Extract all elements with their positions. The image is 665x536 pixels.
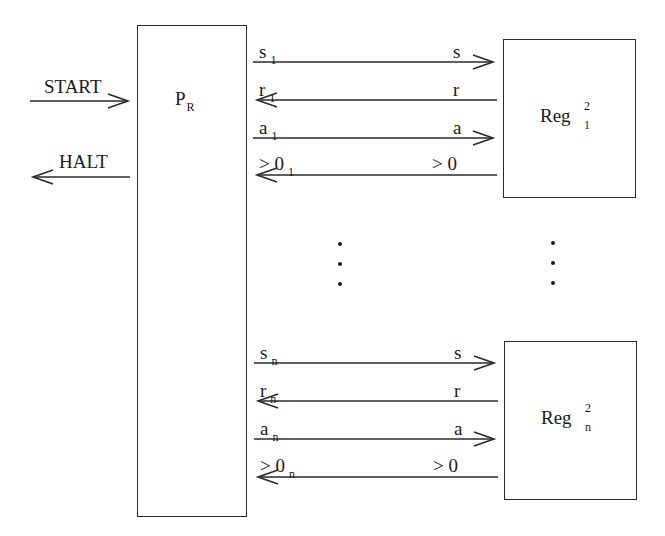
gt0-n-right-label: > 0 [433, 456, 458, 475]
r1-left-label: r1 [259, 80, 275, 99]
rn-arrow [258, 394, 498, 408]
processor-name: P [175, 88, 186, 109]
an-left-label: an [260, 419, 278, 438]
start-label: START [44, 77, 102, 96]
ellipsis-dot [551, 241, 555, 245]
ellipsis-dot [551, 261, 555, 265]
gt0-1-left-label: > 01 [259, 154, 294, 173]
rn-left-label: rn [260, 381, 276, 400]
a1-right-label: a [453, 118, 461, 137]
register-1-label: Reg21 [540, 106, 571, 125]
r1-right-label: r [453, 80, 459, 99]
an-right-label: a [454, 419, 462, 438]
register-n-name: Reg [541, 407, 572, 428]
a1-left-label: a1 [259, 118, 277, 137]
processor-subscript: R [187, 100, 195, 114]
ellipsis-dot [338, 262, 342, 266]
register-1-subscript: 1 [584, 119, 590, 131]
register-n-subscript: n [585, 421, 591, 433]
ellipsis-dot [551, 281, 555, 285]
halt-label: HALT [59, 152, 108, 171]
r1-arrow [257, 93, 497, 107]
processor-label: PR [175, 89, 195, 108]
sn-left-label: sn [260, 343, 277, 362]
gt0-n-left-label: > 0n [260, 456, 295, 475]
s1-right-label: s [453, 42, 460, 61]
halt-arrow [33, 170, 130, 184]
register-1-superscript: 2 [584, 100, 590, 112]
ellipsis-dot [338, 282, 342, 286]
rn-right-label: r [454, 381, 460, 400]
gt0-1-right-label: > 0 [432, 154, 457, 173]
register-1-name: Reg [540, 105, 571, 126]
register-n-label: Reg2n [541, 408, 572, 427]
register-n-superscript: 2 [585, 402, 591, 414]
ellipsis-dot [338, 242, 342, 246]
sn-right-label: s [454, 343, 461, 362]
s1-left-label: s1 [259, 42, 276, 61]
